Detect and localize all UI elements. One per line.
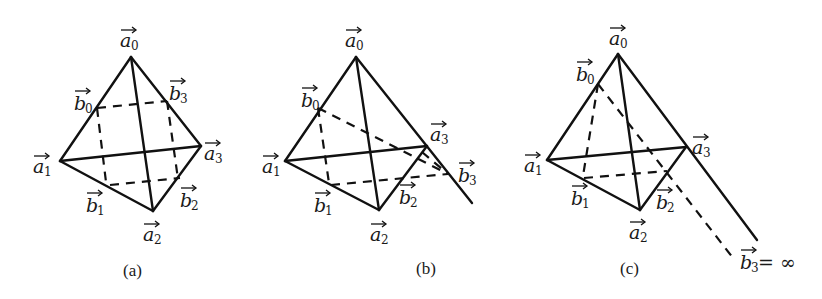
dash-b1-b3 (331, 174, 448, 185)
label-b3-infinity: b3 = ∞ (740, 247, 796, 275)
label-a3: a3 (692, 134, 711, 160)
svg-text:2: 2 (410, 196, 418, 210)
svg-text:a: a (430, 123, 441, 145)
dash-b0-b3 (318, 108, 448, 174)
svg-text:3: 3 (469, 174, 477, 188)
svg-text:0: 0 (620, 37, 628, 51)
edge-a0-a3-extended (618, 54, 757, 240)
svg-text:a: a (692, 136, 703, 158)
svg-text:1: 1 (582, 197, 590, 211)
svg-text:3: 3 (703, 146, 711, 160)
caption-a: (a) (123, 261, 142, 280)
panel-c: a0 a1 a2 a3 b0 b1 b2 b3 = ∞ (524, 25, 796, 278)
svg-text:a: a (143, 223, 154, 245)
svg-text:0: 0 (312, 99, 320, 113)
svg-text:a: a (262, 155, 273, 177)
svg-text:3: 3 (180, 92, 188, 106)
edge-a1-a3 (547, 147, 686, 160)
svg-text:a: a (33, 155, 44, 177)
dash-b0-b1 (583, 84, 598, 176)
svg-text:a: a (629, 221, 640, 243)
label-a1: a1 (262, 153, 281, 179)
caption-c: (c) (620, 259, 639, 278)
label-a1: a1 (33, 153, 52, 179)
label-b2: b2 (180, 185, 199, 213)
svg-text:1: 1 (97, 204, 105, 218)
edge-a1-a2 (60, 161, 153, 211)
label-b1: b1 (571, 183, 590, 211)
svg-text:2: 2 (191, 199, 199, 213)
svg-text:a: a (120, 29, 131, 51)
label-a2: a2 (629, 219, 648, 245)
label-b1: b1 (86, 190, 105, 218)
svg-text:= ∞: = ∞ (758, 251, 796, 273)
svg-text:0: 0 (587, 73, 595, 87)
label-b3: b3 (458, 160, 477, 188)
panel-a: a0 a1 a2 a3 b0 b1 b2 b3 (a) (33, 27, 223, 280)
svg-text:1: 1 (325, 204, 333, 218)
label-a1: a1 (524, 152, 543, 178)
dash-b1-b2 (110, 178, 180, 185)
svg-text:0: 0 (85, 102, 93, 116)
svg-text:a: a (370, 223, 381, 245)
svg-text:1: 1 (44, 165, 52, 179)
svg-text:0: 0 (356, 39, 364, 53)
svg-text:a: a (524, 154, 535, 176)
label-b1: b1 (314, 190, 333, 218)
svg-text:2: 2 (640, 231, 648, 245)
svg-text:0: 0 (131, 39, 139, 53)
tetrahedra-figure: a0 a1 a2 a3 b0 b1 b2 b3 (a) (0, 0, 822, 299)
dash-b1-b2 (584, 171, 667, 178)
label-b0: b0 (301, 85, 320, 113)
label-a0: a0 (345, 27, 364, 53)
panel-b: a0 a1 a2 a3 b0 b1 b2 b3 (b) (262, 27, 477, 278)
edge-a0-a1 (60, 57, 131, 161)
label-b2: b2 (399, 182, 418, 210)
dash-b0-b1 (318, 108, 329, 183)
svg-text:3: 3 (441, 133, 449, 147)
svg-text:2: 2 (667, 201, 675, 215)
edge-a0-a3-extended (356, 57, 472, 203)
caption-b: (b) (416, 259, 436, 278)
svg-text:2: 2 (381, 233, 389, 247)
edge-a1-a2 (547, 160, 640, 210)
label-b0: b0 (576, 59, 595, 87)
label-a0: a0 (609, 25, 628, 51)
label-a2: a2 (370, 221, 389, 247)
label-a3: a3 (430, 121, 449, 147)
dash-b0-b3 (97, 101, 167, 108)
svg-text:a: a (204, 142, 215, 164)
svg-text:a: a (345, 29, 356, 51)
svg-text:a: a (609, 27, 620, 49)
label-b2: b2 (656, 187, 675, 215)
svg-text:3: 3 (215, 152, 223, 166)
label-a3: a3 (204, 140, 223, 166)
label-b3: b3 (169, 78, 188, 106)
dash-b3-b2 (167, 101, 178, 179)
label-a0: a0 (120, 27, 139, 53)
label-b0: b0 (74, 88, 93, 116)
label-a2: a2 (143, 221, 162, 247)
svg-text:1: 1 (535, 164, 543, 178)
svg-text:2: 2 (154, 233, 162, 247)
svg-text:1: 1 (273, 165, 281, 179)
edge-a1-a3 (60, 146, 201, 161)
dash-b0-b1 (97, 108, 106, 182)
